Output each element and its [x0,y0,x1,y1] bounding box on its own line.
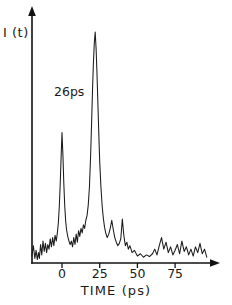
x-axis-title: TIME (ps) [0,284,232,297]
x-axis-tick-label: 75 [160,268,190,281]
y-axis-label: I (t) [3,26,29,39]
x-axis-tick-label: 25 [85,268,115,281]
x-axis-arrow-icon [210,259,220,267]
streak-camera-figure: I (t) 26ps 0255075 TIME (ps) [0,0,232,305]
y-axis-arrow-icon [28,6,36,16]
peak-separation-annotation: 26ps [54,86,84,99]
x-axis-tick-label: 50 [122,268,152,281]
x-axis-tick-label: 0 [47,268,77,281]
intensity-trace [32,32,207,260]
plot-canvas [0,0,232,305]
